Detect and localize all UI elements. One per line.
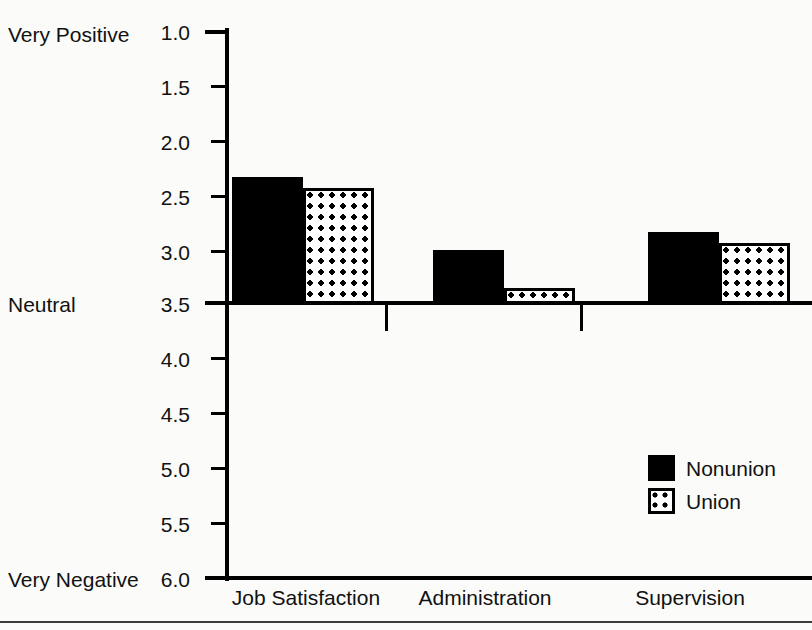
y-tickmark-5-5 — [211, 522, 227, 525]
bar-nonunion-supervision — [648, 232, 719, 305]
bar-nonunion-job-satisfaction — [232, 177, 303, 305]
y-anchor-very-negative: Very Negative — [8, 569, 139, 590]
legend-entry-nonunion: Nonunion — [648, 453, 812, 483]
legend-label-nonunion: Nonunion — [686, 458, 776, 479]
y-anchor-neutral: Neutral — [8, 294, 76, 315]
legend-swatch-nonunion-icon — [648, 455, 675, 481]
y-tick-6-0: 6.0 — [132, 569, 190, 590]
neutral-baseline — [225, 301, 812, 305]
bar-nonunion-administration — [433, 250, 504, 305]
y-tickmark-4-0 — [211, 357, 227, 360]
category-separator-2 — [580, 305, 583, 331]
y-tick-5-5: 5.5 — [132, 514, 190, 535]
y-tickmark-1-0 — [205, 30, 227, 34]
y-tickmark-3-0 — [211, 250, 227, 253]
x-label-administration: Administration — [400, 586, 570, 609]
y-tick-4-0: 4.0 — [132, 349, 190, 370]
y-tickmark-2-5 — [211, 195, 227, 198]
y-tick-1-0: 1.0 — [132, 22, 190, 43]
y-tick-3-0: 3.0 — [132, 242, 190, 263]
y-tick-1-5: 1.5 — [132, 77, 190, 98]
y-anchor-very-positive: Very Positive — [8, 24, 129, 45]
cropped-title-remnant — [300, 0, 600, 3]
chart-figure: Very Positive Neutral Very Negative 1.0 … — [0, 0, 812, 630]
legend-entry-union: Union — [648, 486, 812, 516]
y-tickmark-6-0 — [205, 576, 227, 580]
legend-swatch-union-icon — [648, 488, 675, 514]
bottom-axis-line — [225, 576, 812, 580]
y-tickmark-1-5 — [211, 85, 227, 88]
y-tickmark-5-0 — [211, 467, 227, 470]
bar-union-supervision — [719, 243, 790, 305]
y-tickmark-4-5 — [211, 412, 227, 415]
y-tickmark-2-0 — [211, 140, 227, 143]
x-label-job-satisfaction: Job Satisfaction — [226, 586, 386, 609]
chart-legend: Nonunion Union — [648, 453, 812, 519]
y-tick-2-5: 2.5 — [132, 187, 190, 208]
category-separator-0 — [226, 305, 229, 331]
y-tick-5-0: 5.0 — [132, 459, 190, 480]
page-bottom-rule — [0, 621, 812, 623]
y-axis-tick-labels: 1.0 1.5 2.0 2.5 3.0 3.5 4.0 4.5 5.0 5.5 … — [130, 0, 190, 630]
legend-label-union: Union — [686, 491, 741, 512]
y-tick-4-5: 4.5 — [132, 404, 190, 425]
y-tick-3-5: 3.5 — [132, 294, 190, 315]
bar-union-job-satisfaction — [303, 188, 374, 305]
y-tickmark-3-5 — [205, 301, 227, 305]
x-label-supervision: Supervision — [600, 586, 780, 609]
category-separator-1 — [385, 305, 388, 331]
y-tick-2-0: 2.0 — [132, 132, 190, 153]
